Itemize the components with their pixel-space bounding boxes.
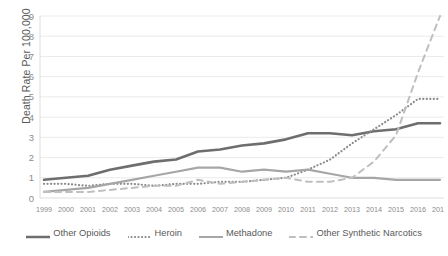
y-tick-label: 7 [29, 51, 34, 62]
x-tick-label: 2009 [256, 205, 272, 214]
x-tick-label: 2004 [146, 205, 162, 214]
x-tick-label: 2016 [410, 205, 426, 214]
y-tick-label: 1 [29, 172, 34, 183]
x-axis-tick-labels: 1999200020012002200320042005200620072008… [36, 205, 448, 214]
y-tick-label: 2 [29, 152, 34, 163]
x-tick-label: 2015 [388, 205, 404, 214]
x-tick-label: 2007 [212, 205, 228, 214]
x-tick-label: 1999 [36, 205, 52, 214]
x-tick-label: 2013 [344, 205, 360, 214]
legend-item-methadone[interactable]: Methadone [199, 228, 273, 238]
legend-item-other-opioids[interactable]: Other Opioids [26, 228, 110, 238]
x-tick-label: 2000 [58, 205, 74, 214]
y-tick-label: 6 [29, 71, 34, 82]
chart-legend: Other OpioidsHeroinMethadoneOther Synthe… [0, 228, 448, 238]
y-tick-label: 0 [29, 193, 34, 204]
chart-container: Death Rate Per 100,000 0123456789 199920… [0, 0, 448, 256]
x-tick-label: 2012 [322, 205, 338, 214]
data-series-group [44, 0, 448, 228]
y-tick-label: 5 [29, 91, 34, 102]
legend-item-heroin[interactable]: Heroin [128, 228, 182, 238]
x-tick-label: 2010 [278, 205, 294, 214]
y-tick-label: 3 [29, 132, 34, 143]
x-tick-label: 2003 [124, 205, 140, 214]
legend-label: Other Opioids [53, 228, 110, 238]
y-axis-tick-labels: 0123456789 [29, 11, 34, 204]
series-line-other-synthetic-narcotics [44, 16, 440, 192]
legend-swatch-icon [26, 228, 50, 238]
x-tick-label: 2008 [234, 205, 250, 214]
plot-area: 0123456789 19992000200120022003200420052… [0, 0, 448, 228]
x-tick-label: 2014 [366, 205, 382, 214]
legend-swatch-icon [199, 228, 223, 238]
legend-swatch-icon [128, 228, 152, 238]
x-tick-label: 2011 [300, 205, 315, 214]
legend-label: Heroin [155, 228, 182, 238]
legend-swatch-icon [289, 228, 313, 238]
y-tick-label: 8 [29, 31, 34, 42]
plot-right-mask [444, 0, 448, 228]
x-tick-label: 2005 [168, 205, 184, 214]
y-tick-label: 9 [29, 11, 34, 22]
x-tick-label: 2001 [80, 205, 96, 214]
x-tick-label: 2002 [102, 205, 118, 214]
x-tick-label: 2006 [190, 205, 206, 214]
legend-item-other-synthetic-narcotics[interactable]: Other Synthetic Narcotics [289, 228, 421, 238]
legend-label: Methadone [226, 228, 273, 238]
legend-label: Other Synthetic Narcotics [316, 228, 421, 238]
y-tick-label: 4 [29, 112, 34, 123]
